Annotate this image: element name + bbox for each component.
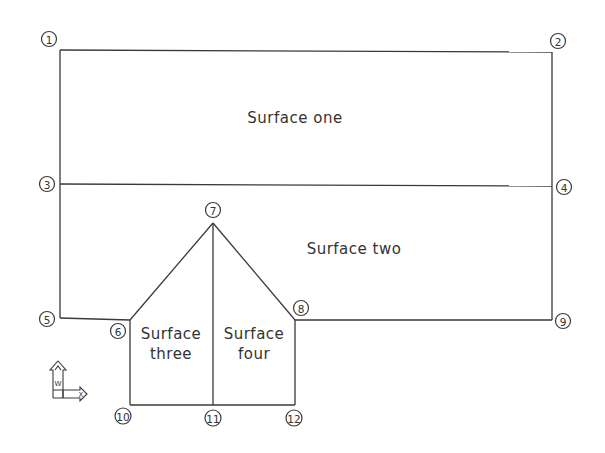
node-10: 10: [115, 408, 131, 424]
surface-three-label-line2: three: [150, 345, 192, 363]
ucs-x-label: X: [79, 391, 84, 399]
node-7: 7: [206, 203, 221, 218]
node-4: 4: [557, 180, 572, 195]
edge-6-7: [130, 223, 213, 320]
surface-four-label-line2: four: [238, 345, 270, 363]
node-label: 11: [206, 413, 219, 425]
surface-two-label: Surface two: [307, 240, 402, 258]
node-3: 3: [40, 177, 55, 192]
node-label: 7: [210, 205, 217, 217]
edge-7-8: [213, 223, 295, 320]
surface-three-label-line1: Surface: [141, 325, 202, 343]
surface-four-label-line1: Surface: [224, 325, 285, 343]
node-label: 10: [116, 411, 129, 423]
node-label: 1: [46, 34, 53, 46]
surface-diagram: Surface one Surface two Surface three Su…: [0, 0, 605, 453]
surface-one-label: Surface one: [247, 109, 342, 127]
node-8: 8: [294, 301, 309, 316]
surface-labels: Surface one Surface two Surface three Su…: [141, 109, 402, 363]
node-label: 4: [561, 182, 568, 194]
node-label: 6: [115, 326, 122, 338]
edge-5-6: [60, 318, 130, 320]
node-label: 12: [287, 413, 300, 425]
edge-1-2: [60, 50, 552, 52]
diagram-edges: [60, 50, 552, 405]
ucs-w-label: W: [55, 380, 62, 388]
node-label: 3: [44, 179, 51, 191]
node-label: 9: [560, 316, 567, 328]
node-label: 5: [44, 314, 51, 326]
node-5: 5: [40, 312, 55, 327]
node-6: 6: [111, 324, 126, 339]
ucs-y-inner-icon: [55, 366, 61, 370]
node-11: 11: [205, 410, 221, 426]
node-1: 1: [42, 32, 57, 47]
ucs-icon: W X: [50, 361, 87, 401]
node-2: 2: [551, 34, 566, 49]
node-label: 8: [298, 303, 305, 315]
node-9: 9: [556, 314, 571, 329]
edge-3-4: [60, 184, 552, 186]
node-markers: 1 2 3 4 5 6 7 8: [40, 32, 572, 427]
node-label: 2: [555, 36, 562, 48]
node-12: 12: [286, 410, 302, 426]
